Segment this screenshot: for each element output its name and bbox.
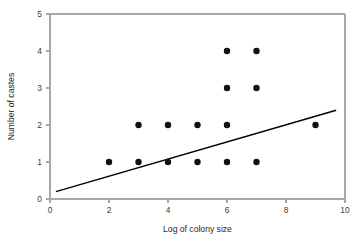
data-point [224,159,230,165]
data-point [312,122,318,128]
data-point [253,48,259,54]
x-axis-tick-label: 10 [340,205,350,215]
x-axis-title: Log of colony size [163,224,232,234]
y-axis-tick-label: 3 [37,83,42,93]
y-axis-tick-label: 1 [37,157,42,167]
data-point [224,85,230,91]
data-points-group [106,48,319,165]
data-point [135,159,141,165]
data-point [224,122,230,128]
data-point [106,159,112,165]
plot-canvas: 012345 0246810 Log of colony size Number… [0,0,359,245]
data-point [253,159,259,165]
plot-frame [50,14,345,199]
data-point [165,159,171,165]
y-axis-tick-label: 0 [37,194,42,204]
data-point [224,48,230,54]
data-point [194,122,200,128]
y-axis-tick-label: 4 [37,46,42,56]
data-point [165,122,171,128]
y-axis-tick-label: 5 [37,9,42,19]
scatter-plot-figure: 012345 0246810 Log of colony size Number… [0,0,359,245]
x-axis-tick-label: 4 [166,205,171,215]
y-axis-tick-label: 2 [37,120,42,130]
y-axis-title: Number of castes [6,73,16,140]
x-axis-tick-label: 2 [107,205,112,215]
x-axis-tick-label: 8 [284,205,289,215]
data-point [194,159,200,165]
y-axis-ticks: 012345 [37,9,50,204]
x-axis-tick-label: 6 [225,205,230,215]
x-axis-tick-label: 0 [48,205,53,215]
x-axis-ticks: 0246810 [48,199,350,215]
data-point [135,122,141,128]
data-point [253,85,259,91]
